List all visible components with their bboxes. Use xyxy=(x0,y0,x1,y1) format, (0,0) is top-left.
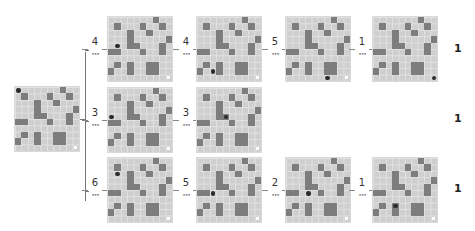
obstacle-cell xyxy=(324,171,330,177)
agent-icon xyxy=(115,44,120,49)
obstacle-cell xyxy=(47,119,53,125)
obstacle-cell xyxy=(431,177,437,183)
obstacle-cell xyxy=(34,138,40,144)
obstacle-cell xyxy=(292,62,298,68)
ellipsis-icon: ••• xyxy=(173,192,199,198)
agent-icon xyxy=(306,191,311,196)
obstacle-cell xyxy=(235,171,241,177)
obstacle-cell xyxy=(60,138,66,144)
ellipsis-icon: ••• xyxy=(173,122,199,128)
obstacle-cell xyxy=(379,190,385,196)
action-count-label: 3 xyxy=(82,108,108,118)
dash-left xyxy=(173,49,179,50)
obstacle-cell xyxy=(127,139,133,145)
obstacle-cell xyxy=(392,209,398,215)
obstacle-cell xyxy=(305,68,311,74)
obstacle-cell xyxy=(197,68,203,74)
obstacle-cell xyxy=(424,49,430,55)
goal-marker xyxy=(167,217,170,220)
obstacle-cell xyxy=(424,190,430,196)
obstacle-cell xyxy=(248,120,254,126)
action-count-label: 5 xyxy=(173,178,199,188)
goal-marker xyxy=(256,147,259,150)
branch-score: 1 xyxy=(454,182,462,195)
obstacle-cell xyxy=(373,68,379,74)
ellipsis-icon: ••• xyxy=(82,192,108,198)
obstacle-cell xyxy=(331,68,337,74)
obstacle-cell xyxy=(66,93,72,99)
state-grid xyxy=(373,158,437,222)
obstacle-cell xyxy=(127,209,133,215)
obstacle-cell xyxy=(108,139,114,145)
state-grid xyxy=(108,158,172,222)
obstacle-cell xyxy=(203,94,209,100)
obstacle-cell xyxy=(153,68,159,74)
obstacle-cell xyxy=(159,49,165,55)
obstacle-cell xyxy=(242,139,248,145)
dash-left xyxy=(82,49,88,50)
obstacle-cell xyxy=(255,107,261,113)
obstacle-cell xyxy=(159,94,165,100)
obstacle-cell xyxy=(248,190,254,196)
obstacle-cell xyxy=(392,68,398,74)
obstacle-cell xyxy=(159,190,165,196)
obstacle-cell xyxy=(203,23,209,29)
obstacle-cell xyxy=(292,49,298,55)
obstacle-cell xyxy=(248,94,254,100)
obstacle-cell xyxy=(305,209,311,215)
state-grid xyxy=(373,17,437,81)
obstacle-cell xyxy=(379,49,385,55)
dash-left xyxy=(262,49,268,50)
obstacle-cell xyxy=(140,49,146,55)
obstacle-cell xyxy=(166,36,172,42)
obstacle-cell xyxy=(235,30,241,36)
action-count-label: 1 xyxy=(349,37,375,47)
obstacle-cell xyxy=(337,49,343,55)
obstacle-cell xyxy=(197,139,203,145)
obstacle-cell xyxy=(21,93,27,99)
obstacle-cell xyxy=(379,23,385,29)
obstacle-cell xyxy=(379,164,385,170)
agent-icon xyxy=(109,115,114,120)
obstacle-cell xyxy=(114,133,120,139)
ellipsis-icon: ••• xyxy=(82,51,108,57)
obstacle-cell xyxy=(424,23,430,29)
action-count-label: 1 xyxy=(349,178,375,188)
agent-icon xyxy=(224,115,229,120)
state-grid xyxy=(108,88,172,152)
obstacle-cell xyxy=(235,101,241,107)
obstacle-cell xyxy=(21,119,27,125)
obstacle-cell xyxy=(324,30,330,36)
transition-edge: 2••• xyxy=(262,182,288,198)
obstacle-cell xyxy=(203,120,209,126)
goal-marker xyxy=(345,217,348,220)
obstacle-cell xyxy=(286,68,292,74)
obstacle-cell xyxy=(418,209,424,215)
obstacle-cell xyxy=(146,171,152,177)
obstacle-cell xyxy=(229,49,235,55)
obstacle-cell xyxy=(73,106,79,112)
transition-edge: 6••• xyxy=(82,182,108,198)
state-grid xyxy=(286,158,350,222)
action-count-label: 6 xyxy=(82,178,108,188)
ellipsis-icon: ••• xyxy=(349,192,375,198)
obstacle-cell xyxy=(203,49,209,55)
obstacle-cell xyxy=(379,203,385,209)
obstacle-cell xyxy=(166,107,172,113)
obstacle-cell xyxy=(248,49,254,55)
action-count-label: 4 xyxy=(82,37,108,47)
obstacle-cell xyxy=(424,164,430,170)
state-grid xyxy=(197,158,261,222)
obstacle-cell xyxy=(286,209,292,215)
ellipsis-icon: ••• xyxy=(349,51,375,57)
goal-marker xyxy=(167,76,170,79)
obstacle-cell xyxy=(318,49,324,55)
dash-left xyxy=(173,120,179,121)
transition-edge: 3••• xyxy=(82,112,108,128)
obstacle-cell xyxy=(114,23,120,29)
obstacle-cell xyxy=(292,23,298,29)
obstacle-cell xyxy=(140,190,146,196)
obstacle-cell xyxy=(411,171,417,177)
obstacle-cell xyxy=(292,203,298,209)
obstacle-cell xyxy=(127,68,133,74)
